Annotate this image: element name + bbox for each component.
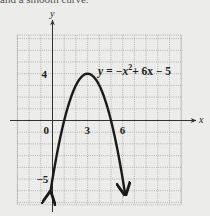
x-axis-label: x xyxy=(198,114,204,125)
parabola-chart: 0364−5 y = −x2+ 6x − 5 x y xyxy=(0,0,210,216)
y-axis-label: y xyxy=(49,8,55,19)
x-tick-label: 6 xyxy=(120,124,126,136)
equation-label: y = −x2+ 6x − 5 xyxy=(96,63,171,78)
y-tick-label: −5 xyxy=(37,173,49,185)
y-tick-label: 4 xyxy=(42,68,48,80)
x-tick-label: 0 xyxy=(44,124,50,136)
x-tick-label: 3 xyxy=(85,124,91,136)
